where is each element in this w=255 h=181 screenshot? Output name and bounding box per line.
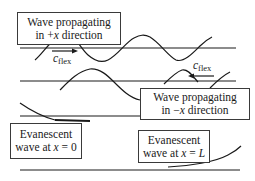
wave-negative-x-right (210, 72, 230, 88)
label-evanescent-xL: Evanescent wave at x = L (138, 130, 210, 163)
label-evanescent-x0-line1: Evanescent (20, 128, 72, 141)
speed-label-positive: cflex (53, 52, 71, 66)
label-wave-positive-x-line2: in +x direction (35, 29, 102, 42)
label-evanescent-x0-line2: wave at x = 0 (15, 141, 76, 154)
evanescent-flat-x0 (55, 120, 90, 121)
label-wave-negative-x-line1: Wave propagating (153, 91, 237, 104)
evanescent-curve-x0 (20, 103, 55, 120)
arrow-right-head (72, 49, 78, 54)
label-evanescent-xL-line2: wave at x = L (143, 147, 205, 160)
label-wave-positive-x: Wave propagating in +x direction (17, 12, 121, 45)
label-wave-positive-x-line1: Wave propagating (27, 16, 111, 29)
wave-diagram: Wave propagating in +x direction Wave pr… (0, 0, 255, 181)
wave-negative-x (60, 69, 140, 100)
label-evanescent-xL-line1: Evanescent (148, 134, 200, 147)
label-evanescent-x0: Evanescent wave at x = 0 (10, 123, 82, 159)
label-wave-negative-x-line2: in −x direction (161, 104, 228, 117)
label-wave-negative-x: Wave propagating in −x direction (140, 88, 250, 120)
speed-label-negative: cflex (193, 59, 211, 73)
